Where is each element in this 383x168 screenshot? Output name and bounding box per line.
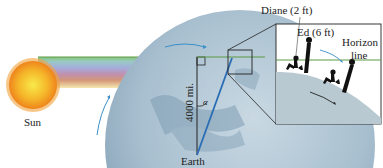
diane-label: Diane (2 ft) bbox=[261, 5, 312, 16]
sun-label: Sun bbox=[24, 117, 41, 128]
horizon-label-1: Horizon bbox=[342, 37, 378, 48]
angle-label: α bbox=[203, 98, 208, 107]
earth-label: Earth bbox=[181, 156, 205, 167]
sunset-horizon-diagram: Sun Earth 4000 mi. α Diane (2 ft) Ed (6 … bbox=[0, 0, 383, 168]
ed-label: Ed (6 ft) bbox=[297, 27, 334, 38]
sun-icon bbox=[6, 58, 60, 112]
horizon-label-2: line bbox=[351, 50, 368, 61]
radius-label: 4000 mi. bbox=[184, 83, 195, 122]
